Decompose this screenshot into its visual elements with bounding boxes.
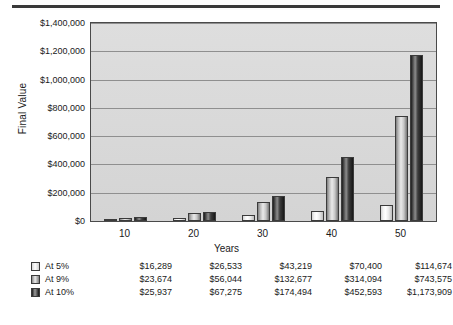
table-cell: $314,094 xyxy=(308,274,382,284)
table-cell: $743,575 xyxy=(378,274,452,284)
legend-series-label: At 5% xyxy=(45,261,69,271)
y-axis-tick-label: $1,400,000 xyxy=(19,19,85,28)
bar-50yr-10pct xyxy=(410,55,423,221)
bar-20yr-10pct xyxy=(203,212,216,222)
y-axis-tick-label: $400,000 xyxy=(19,160,85,169)
bar-40yr-5pct xyxy=(311,211,324,221)
y-axis-tick-label: $600,000 xyxy=(19,132,85,141)
table-cell: $25,937 xyxy=(98,287,172,297)
table-cell: $67,275 xyxy=(168,287,242,297)
bar-50yr-5pct xyxy=(380,205,393,221)
legend-swatch xyxy=(31,275,40,284)
table-row: At 5%$16,289$26,533$43,219$70,400$114,67… xyxy=(0,260,453,273)
table-cell: $452,593 xyxy=(308,287,382,297)
table-row: At 9%$23,674$56,044$132,677$314,094$743,… xyxy=(0,273,453,286)
x-axis-tick-label: 30 xyxy=(233,228,293,239)
gridline xyxy=(91,23,436,24)
bar-40yr-9pct xyxy=(326,177,339,221)
bar-chart: Final Value $1,400,000$1,200,000$1,000,0… xyxy=(0,0,453,258)
y-axis-tick-label: $1,000,000 xyxy=(19,76,85,85)
table-cell: $132,677 xyxy=(238,274,312,284)
y-axis-tick-label: $0 xyxy=(19,217,85,226)
bar-30yr-5pct xyxy=(242,215,255,221)
y-axis-tick-label: $800,000 xyxy=(19,104,85,113)
data-table-legend: At 5%$16,289$26,533$43,219$70,400$114,67… xyxy=(0,258,453,320)
table-cell: $114,674 xyxy=(378,261,452,271)
table-row: At 10%$25,937$67,275$174,494$452,593$1,1… xyxy=(0,286,453,299)
bar-10yr-5pct xyxy=(104,219,117,221)
table-cell: $16,289 xyxy=(98,261,172,271)
y-axis-tick-labels: $1,400,000$1,200,000$1,000,000$800,000$6… xyxy=(19,0,85,258)
bar-20yr-9pct xyxy=(188,213,201,221)
bar-40yr-10pct xyxy=(341,157,354,221)
legend-swatch xyxy=(31,262,40,271)
bar-20yr-5pct xyxy=(173,218,186,221)
x-axis-tick-label: 50 xyxy=(371,228,431,239)
table-cell: $70,400 xyxy=(308,261,382,271)
gridline xyxy=(91,80,436,81)
table-cell: $56,044 xyxy=(168,274,242,284)
legend-series-label: At 9% xyxy=(45,274,69,284)
gridline xyxy=(91,108,436,109)
bar-50yr-9pct xyxy=(395,116,408,221)
table-cell: $43,219 xyxy=(238,261,312,271)
y-axis-tick-label: $200,000 xyxy=(19,189,85,198)
x-axis-tick-label: 20 xyxy=(164,228,224,239)
bar-10yr-9pct xyxy=(119,218,132,221)
x-axis-title: Years xyxy=(0,243,453,254)
table-cell: $23,674 xyxy=(98,274,172,284)
plot-area xyxy=(90,22,437,222)
bar-30yr-10pct xyxy=(272,196,285,221)
x-axis-tick-label: 40 xyxy=(302,228,362,239)
gridline xyxy=(91,136,436,137)
table-cell: $26,533 xyxy=(168,261,242,271)
gridline xyxy=(91,164,436,165)
table-cell: $1,173,909 xyxy=(378,287,452,297)
legend-series-label: At 10% xyxy=(45,287,74,297)
legend-swatch xyxy=(31,288,40,297)
gridline xyxy=(91,51,436,52)
y-axis-tick-label: $1,200,000 xyxy=(19,47,85,56)
table-cell: $174,494 xyxy=(238,287,312,297)
x-axis-tick-label: 10 xyxy=(95,228,155,239)
bar-30yr-9pct xyxy=(257,202,270,221)
gridline xyxy=(91,193,436,194)
bar-10yr-10pct xyxy=(134,217,147,221)
